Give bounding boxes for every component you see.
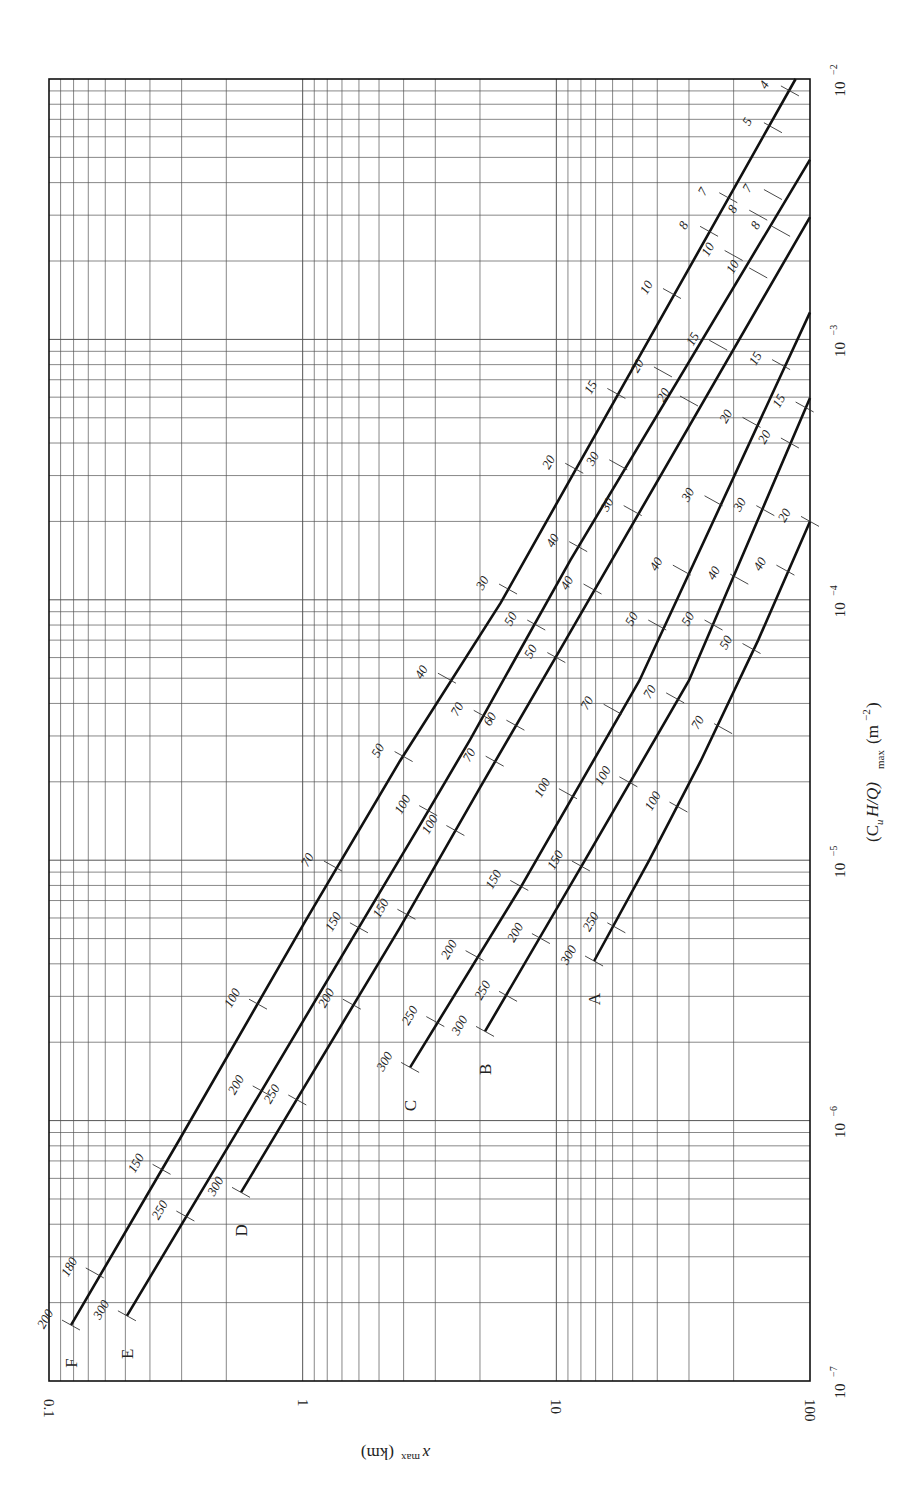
distance-label: 50 [368, 741, 388, 760]
distance-label: 40 [646, 554, 666, 573]
distance-label: 100 [531, 775, 554, 800]
distance-label: 200 [224, 1072, 247, 1097]
distance-label: 20 [539, 452, 559, 471]
distance-tick [232, 1187, 250, 1197]
distance-label: 300 [447, 1013, 470, 1039]
distance-label: 7 [739, 181, 755, 195]
distance-tick [499, 584, 517, 594]
distance-tick [776, 565, 794, 575]
y-axis-title-sub: max [401, 1452, 420, 1464]
distance-label: 30 [729, 495, 749, 515]
distance-label: 100 [591, 763, 614, 788]
distance-label: 30 [677, 485, 697, 505]
distance-tick [118, 1311, 136, 1321]
distance-label: 200 [315, 985, 338, 1010]
y-tick-label: 10 [548, 1399, 564, 1414]
distance-label: 300 [89, 1297, 112, 1323]
distance-label: 250 [579, 909, 602, 934]
distance-tick [654, 367, 672, 377]
distance-tick [446, 826, 464, 836]
distance-label: 250 [148, 1197, 171, 1222]
x-tick-label: 10−5 [828, 846, 848, 878]
curve-c [410, 312, 810, 1067]
distance-label: 40 [543, 531, 563, 550]
distance-tick [709, 340, 727, 350]
y-axis-title: x max (km) [361, 1444, 431, 1464]
distance-label: 300 [203, 1174, 226, 1200]
x-tick-label: 10−7 [828, 1366, 848, 1398]
distance-label: 200 [34, 1306, 57, 1331]
distance-label: 100 [221, 985, 244, 1010]
curve-d [241, 217, 810, 1192]
distance-tick [764, 190, 782, 200]
x-axis-title: (C u H/Q) max (m −2 ) [860, 702, 886, 842]
x-axis-title-close: ) [863, 702, 882, 708]
distance-label: 40 [750, 554, 770, 573]
curves: 200180150100705040302015108754F300250200… [34, 78, 819, 1368]
distance-tick [569, 542, 587, 552]
distance-tick [153, 1164, 171, 1174]
distance-label: 70 [687, 713, 707, 732]
distance-label: 10 [636, 277, 656, 296]
y-tick-label: 0.1 [41, 1399, 57, 1418]
distance-label: 50 [716, 632, 736, 651]
svg-text:10: 10 [832, 1384, 848, 1399]
curve-label-d: D [232, 1224, 251, 1236]
distance-tick [673, 565, 691, 575]
distance-label: 250 [260, 1081, 283, 1106]
distance-label: 60 [480, 709, 500, 728]
x-axis-title-unit: (m [863, 725, 882, 744]
distance-label: 150 [544, 847, 567, 872]
x-tick-label: 10−4 [828, 585, 848, 617]
x-tick-label: 10−6 [828, 1106, 848, 1138]
distance-label: 100 [391, 792, 414, 817]
svg-text:10: 10 [832, 1123, 848, 1138]
distance-label: 70 [447, 699, 467, 718]
x-axis-title-sub: max [874, 750, 886, 769]
x-tick-label: 10−2 [828, 64, 848, 96]
x-axis-title-open: (C [863, 825, 882, 842]
svg-text:10: 10 [832, 342, 848, 357]
svg-text:10: 10 [832, 602, 848, 617]
distance-tick [609, 460, 627, 470]
distance-label: 5 [739, 114, 755, 128]
distance-label: 20 [716, 406, 736, 425]
svg-text:−7: −7 [828, 1366, 839, 1377]
curve-e [127, 160, 810, 1316]
distance-label: 70 [577, 693, 597, 712]
y-axis-title-unit: (km) [361, 1444, 394, 1463]
distance-label: 100 [418, 812, 441, 837]
svg-text:10: 10 [832, 82, 848, 97]
distance-label: 8 [747, 218, 763, 232]
distance-label: 15 [581, 377, 601, 396]
distance-label: 70 [459, 745, 479, 764]
distance-label: 250 [398, 1003, 421, 1028]
svg-text:−3: −3 [828, 325, 839, 336]
distance-label: 150 [369, 895, 392, 920]
curve-a [594, 521, 810, 961]
distance-tick [585, 956, 603, 966]
x-axis-title-mid: H/Q) [863, 782, 882, 818]
distance-tick [772, 226, 790, 236]
distance-label: 100 [641, 788, 664, 813]
y-tick-label: 1 [295, 1399, 311, 1407]
distance-label: 10 [723, 257, 743, 276]
distance-label: 7 [694, 184, 710, 198]
y-axis-title-main: x [422, 1444, 431, 1463]
distance-label: 40 [704, 563, 724, 582]
curve-label-c: C [401, 1100, 420, 1111]
distance-label: 300 [372, 1049, 395, 1075]
distance-label: 150 [482, 867, 505, 892]
curve-label-b: B [476, 1064, 495, 1075]
x-axis-title-exp: −2 [860, 709, 872, 721]
distance-label: 30 [472, 573, 492, 593]
distance-label: 10 [698, 239, 718, 258]
distance-label: 70 [640, 682, 660, 701]
curve-b [485, 398, 810, 1031]
distance-label: 200 [504, 920, 527, 945]
distance-label: 40 [557, 573, 577, 592]
curve-label-a: A [585, 992, 604, 1005]
distance-tick [705, 496, 723, 506]
svg-text:10: 10 [832, 863, 848, 878]
distance-label: 150 [322, 909, 345, 934]
